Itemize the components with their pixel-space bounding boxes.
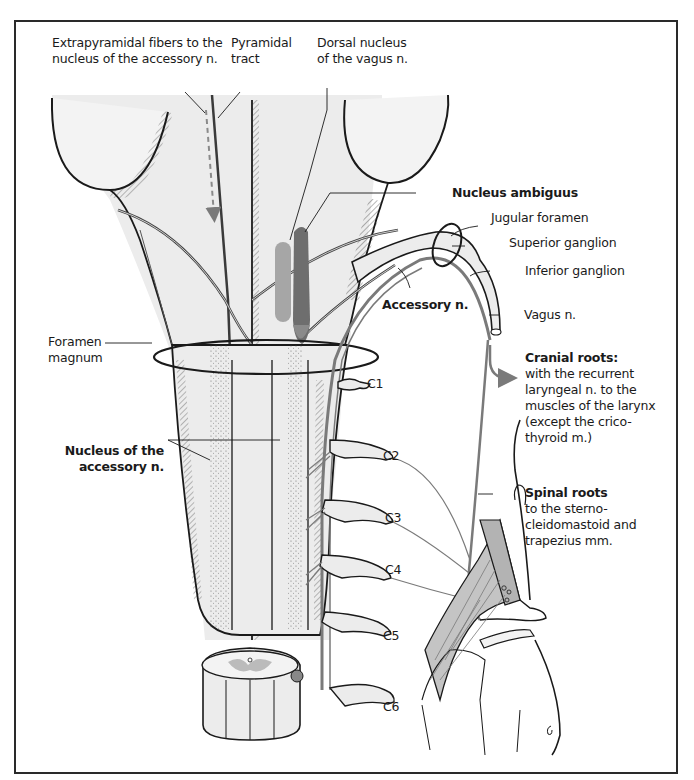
label-nucleus-accessory: Nucleus of the accessory n. — [52, 443, 164, 475]
label-title: Cranial roots: — [525, 350, 655, 366]
label-pyramidal-tract: Pyramidal tract — [231, 35, 292, 67]
label-line: tract — [231, 51, 292, 67]
label-jugular-foramen: Jugular foramen — [491, 210, 588, 226]
label-line: accessory n. — [52, 459, 164, 475]
label-line: (except the crico- — [525, 414, 655, 430]
label-inferior-ganglion: Inferior ganglion — [525, 263, 625, 279]
label-superior-ganglion: Superior ganglion — [509, 235, 616, 251]
label-line: trapezius mm. — [525, 533, 637, 549]
label-foramen-magnum: Foramen magnum — [48, 334, 103, 366]
label-dorsal-nucleus-vagus: Dorsal nucleus of the vagus n. — [317, 35, 408, 67]
label-line: Dorsal nucleus — [317, 35, 408, 51]
label-c2: C2 — [383, 448, 399, 464]
label-spinal-roots: Spinal roots to the sterno- cleidomastoi… — [525, 485, 637, 549]
shoulder-figure — [422, 420, 560, 755]
label-line: magnum — [48, 350, 103, 366]
label-c1: C1 — [367, 376, 383, 392]
label-line: nucleus of the accessory n. — [52, 51, 222, 67]
label-c5: C5 — [383, 628, 399, 644]
label-vagus-n: Vagus n. — [524, 307, 576, 323]
label-c3: C3 — [385, 510, 401, 526]
label-cranial-roots: Cranial roots: with the recurrent laryng… — [525, 350, 655, 446]
label-line: cleidomastoid and — [525, 517, 637, 533]
label-line: to the sterno- — [525, 501, 637, 517]
label-c4: C4 — [385, 562, 401, 578]
label-extrapyramidal-fibers: Extrapyramidal fibers to the nucleus of … — [52, 35, 222, 67]
label-nucleus-ambiguus: Nucleus ambiguus — [452, 185, 578, 201]
label-line: Foramen — [48, 334, 103, 350]
label-line: of the vagus n. — [317, 51, 408, 67]
label-line: with the recurrent — [525, 366, 655, 382]
label-accessory-n: Accessory n. — [382, 297, 468, 313]
label-line: laryngeal n. to the — [525, 382, 655, 398]
label-line: muscles of the larynx — [525, 398, 655, 414]
label-line: Nucleus of the — [52, 443, 164, 459]
dorsal-nucleus-vagus — [275, 242, 291, 322]
label-line: Extrapyramidal fibers to the — [52, 35, 222, 51]
label-c6: C6 — [383, 699, 399, 715]
label-title: Spinal roots — [525, 485, 637, 501]
label-line: thyroid m.) — [525, 430, 655, 446]
label-line: Pyramidal — [231, 35, 292, 51]
spinal-cord-cross-section — [202, 648, 303, 740]
